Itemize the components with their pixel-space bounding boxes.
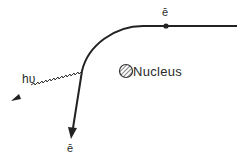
photon-wave xyxy=(31,71,82,85)
photon-label: hυ xyxy=(22,73,35,85)
electron-arrowhead-icon xyxy=(68,127,77,139)
bremsstrahlung-diagram xyxy=(0,0,247,166)
electron-outgoing-label: ē xyxy=(67,143,73,154)
electron-incoming-label: ē xyxy=(162,7,168,18)
nucleus-label: Nucleus xyxy=(133,65,182,78)
electron-dot xyxy=(163,23,168,28)
nucleus-icon xyxy=(120,65,133,78)
photon-arrowhead-icon xyxy=(11,94,21,101)
